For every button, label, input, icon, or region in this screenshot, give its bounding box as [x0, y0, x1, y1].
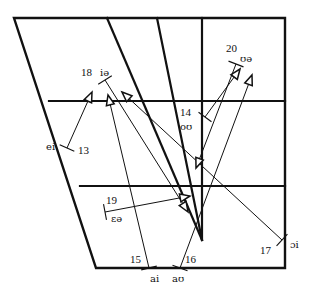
- ipa-symbol: oʊ: [180, 121, 192, 132]
- diphthong-number: 18: [81, 66, 93, 78]
- trajectory-line: [199, 64, 236, 161]
- trajectory-line: [205, 75, 235, 117]
- diphthong-number: 13: [78, 144, 90, 156]
- trajectory-line: [67, 99, 89, 148]
- arrowhead-icon: [179, 201, 188, 212]
- diphthong-18: [98, 76, 188, 212]
- diphthong-number: 14: [180, 106, 192, 118]
- ipa-symbol: iə: [100, 67, 109, 78]
- ipa-symbol: ai: [150, 273, 159, 284]
- ipa-symbol: ɛə: [111, 213, 122, 224]
- diphthong-labels: 13ei14oʊ15ai16aʊ17ɔi18iə19ɛə20ʊə: [46, 42, 299, 284]
- ipa-symbol: ʊə: [240, 53, 252, 64]
- ipa-symbol: ei: [46, 141, 55, 152]
- diphthong-number: 16: [185, 253, 197, 265]
- start-tick: [199, 112, 212, 121]
- trajectory-line: [128, 97, 282, 240]
- vowel-chart: 13ei14oʊ15ai16aʊ17ɔi18iə19ɛə20ʊə: [0, 0, 313, 295]
- diphthong-14: [199, 69, 240, 122]
- ipa-symbol: aʊ: [172, 273, 184, 284]
- diphthong-number: 15: [130, 253, 142, 265]
- diphthong-number: 19: [106, 194, 118, 206]
- start-tick: [60, 145, 75, 152]
- diphthong-number: 17: [260, 244, 272, 256]
- diphthong-17: [122, 92, 287, 246]
- diphthong-16: [173, 75, 253, 271]
- arrowhead-icon: [245, 75, 252, 86]
- diphthong-arrows: [60, 61, 288, 271]
- diphthong-number: 20: [226, 42, 238, 54]
- ipa-symbol: ɔi: [290, 239, 299, 250]
- diphthong-15: [106, 95, 156, 270]
